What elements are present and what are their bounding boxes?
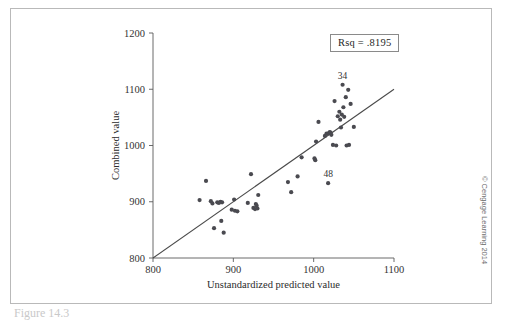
data-point — [210, 201, 214, 205]
data-point — [334, 143, 338, 147]
data-point — [235, 209, 239, 213]
point-labels: 3448 — [323, 71, 347, 179]
data-points — [197, 83, 355, 235]
data-point — [255, 206, 259, 210]
data-point — [316, 120, 320, 124]
data-point — [296, 174, 300, 178]
figure-caption: Figure 14.3 — [14, 306, 69, 321]
x-tick-label: 900 — [225, 264, 241, 275]
data-point — [329, 133, 333, 137]
data-point — [336, 114, 340, 118]
data-point — [222, 231, 226, 235]
y-tick-label: 1000 — [124, 140, 145, 151]
data-point-label: 34 — [338, 71, 348, 81]
x-axis-title: Unstandardized predicted value — [207, 279, 340, 290]
data-point — [347, 143, 351, 147]
y-tick-label: 1100 — [124, 84, 145, 95]
data-point — [204, 179, 208, 183]
data-point — [344, 95, 348, 99]
data-point — [342, 115, 346, 119]
data-point — [341, 105, 345, 109]
axes: 80090010001100800900100011001200 — [124, 28, 404, 276]
y-tick-label: 900 — [129, 196, 145, 207]
data-point — [349, 102, 353, 106]
data-point — [249, 172, 253, 176]
data-point — [256, 193, 260, 197]
copyright-credit: © Cengage Learning 2014 — [480, 176, 489, 296]
data-point-label: 48 — [323, 169, 333, 179]
data-point — [338, 118, 342, 122]
data-point — [332, 99, 336, 103]
y-tick-label: 1200 — [124, 28, 145, 39]
data-point — [340, 83, 344, 87]
x-tick-label: 800 — [145, 264, 161, 275]
data-point — [352, 125, 356, 129]
data-point — [219, 219, 223, 223]
reference-line — [153, 89, 394, 258]
data-point — [197, 198, 201, 202]
data-point — [232, 197, 236, 201]
data-point — [286, 180, 290, 184]
data-point — [212, 226, 216, 230]
data-point — [314, 139, 318, 143]
data-point — [313, 158, 317, 162]
data-point — [300, 155, 304, 159]
data-point — [326, 181, 330, 185]
data-point — [246, 201, 250, 205]
data-point — [339, 125, 343, 129]
rsq-annotation-box: Rsq = .8195 — [330, 34, 399, 52]
rsq-text: Rsq = .8195 — [338, 37, 391, 48]
data-point — [346, 88, 350, 92]
x-tick-label: 1100 — [384, 264, 405, 275]
x-tick-label: 1000 — [303, 264, 324, 275]
data-point — [220, 200, 224, 204]
y-tick-label: 800 — [129, 253, 145, 264]
y-axis-title: Combined value — [110, 111, 121, 180]
data-point — [289, 190, 293, 194]
